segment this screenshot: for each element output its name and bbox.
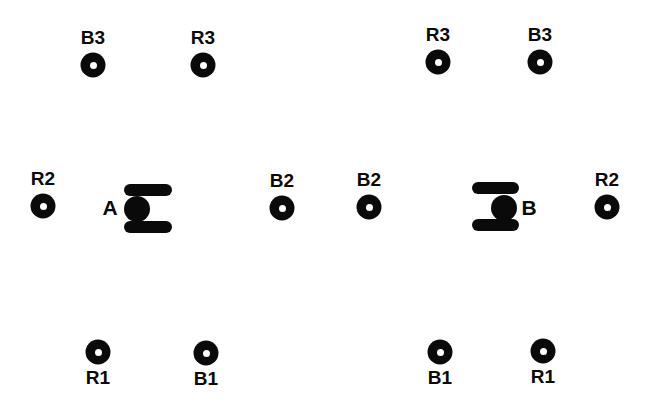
- source-bottom-bar-icon: [124, 221, 172, 233]
- receiver-dot-icon: [194, 341, 219, 366]
- receiver-label: B3: [528, 25, 552, 44]
- receiver-label: R2: [595, 170, 619, 189]
- receiver-label: R3: [191, 28, 215, 47]
- receiver-dot-icon: [270, 196, 295, 221]
- source-label: B: [521, 197, 536, 218]
- receiver-dot-hole-icon: [435, 59, 442, 66]
- receiver-label: R2: [31, 169, 55, 188]
- receiver-label: B2: [270, 171, 294, 190]
- receiver-label: R1: [531, 367, 555, 386]
- receiver-dot-hole-icon: [366, 204, 373, 211]
- receiver-dot-hole-icon: [437, 349, 444, 356]
- receiver-label: R1: [86, 368, 110, 387]
- receiver-dot-icon: [31, 194, 56, 219]
- receiver-label: B3: [81, 28, 105, 47]
- source-label: A: [102, 197, 117, 218]
- source-dot-icon: [491, 195, 517, 221]
- receiver-dot-icon: [528, 50, 553, 75]
- receiver-label: B1: [194, 369, 218, 388]
- receiver-label: B1: [428, 368, 452, 387]
- receiver-label: B2: [357, 170, 381, 189]
- diagram-canvas: B3 R3 R3 B3 R2 B2 B2: [0, 0, 646, 416]
- receiver-dot-hole-icon: [279, 205, 286, 212]
- receiver-dot-icon: [531, 339, 556, 364]
- receiver-dot-icon: [595, 195, 620, 220]
- source-top-bar-icon: [472, 182, 519, 194]
- receiver-dot-hole-icon: [40, 203, 47, 210]
- receiver-dot-icon: [81, 53, 106, 78]
- receiver-dot-icon: [86, 340, 111, 365]
- receiver-dot-icon: [426, 50, 451, 75]
- receiver-dot-hole-icon: [540, 348, 547, 355]
- receiver-dot-hole-icon: [604, 204, 611, 211]
- receiver-dot-hole-icon: [90, 62, 97, 69]
- receiver-dot-icon: [428, 340, 453, 365]
- source-dot-icon: [124, 196, 150, 222]
- receiver-dot-hole-icon: [95, 349, 102, 356]
- receiver-dot-hole-icon: [537, 59, 544, 66]
- receiver-dot-hole-icon: [200, 62, 207, 69]
- receiver-dot-hole-icon: [203, 350, 210, 357]
- receiver-label: R3: [426, 25, 450, 44]
- receiver-dot-icon: [191, 53, 216, 78]
- source-bottom-bar-icon: [472, 219, 519, 231]
- receiver-dot-icon: [357, 195, 382, 220]
- source-top-bar-icon: [124, 184, 172, 196]
